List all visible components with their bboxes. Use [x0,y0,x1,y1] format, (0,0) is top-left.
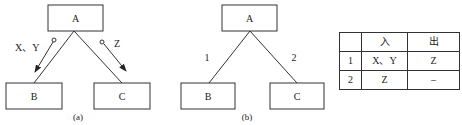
caption-b: (b) [242,112,253,122]
io-table: 入 出 1 X、Y Z 2 Z – [339,32,460,90]
table-header-cell: 入 [362,33,408,52]
diagram-b: A B C 1 2 (b) [181,5,324,122]
node-a-left-label: B [31,91,38,102]
table-cell: – [408,71,460,90]
diagram-canvas: A B C X、Y Z (a) A [0,0,462,125]
table-header-cell: 出 [408,33,460,52]
table-header-row: 入 出 [340,33,460,52]
node-b-right-label: C [294,91,301,102]
node-a-top-label: A [72,13,80,24]
node-a-right-label: C [119,91,126,102]
table-cell: Z [362,71,408,90]
table-cell: 1 [340,52,362,71]
edge-b-right [250,31,297,83]
node-b-top-label: A [246,13,254,24]
table-cell: X、Y [362,52,408,71]
edge-b-left [209,31,250,83]
caption-a: (a) [73,112,83,122]
diagram-a: A B C X、Y Z (a) [6,5,150,122]
flow-a-left-label: X、Y [15,42,39,53]
edge-b-left-label: 1 [205,52,210,63]
table-cell: Z [408,52,460,71]
table-row: 2 Z – [340,71,460,90]
data-couple-arrow-icon [100,40,126,71]
table-cell: 2 [340,71,362,90]
table-header-cell [340,33,362,52]
edge-b-right-label: 2 [292,52,297,63]
node-b-left-label: B [205,91,212,102]
flow-a-right-label: Z [114,38,120,49]
table-row: 1 X、Y Z [340,52,460,71]
